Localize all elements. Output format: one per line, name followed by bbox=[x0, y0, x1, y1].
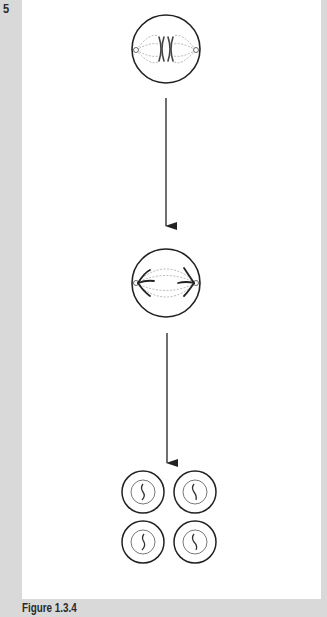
centriole-left-icon bbox=[134, 48, 139, 53]
meiosis-diagram bbox=[0, 0, 327, 617]
daughter-cells bbox=[122, 471, 216, 563]
daughter-cell bbox=[122, 471, 164, 513]
daughter-cell bbox=[174, 471, 216, 513]
centriole-right-icon bbox=[194, 48, 199, 53]
anaphase-cell bbox=[132, 249, 200, 317]
daughter-cell bbox=[174, 521, 216, 563]
separating-chromatids-icon bbox=[138, 268, 194, 296]
chromosome-pair-icon bbox=[159, 37, 173, 61]
daughter-cell bbox=[122, 521, 164, 563]
metaphase-cell bbox=[132, 15, 200, 83]
figure-caption: Figure 1.3.4 bbox=[22, 601, 77, 615]
